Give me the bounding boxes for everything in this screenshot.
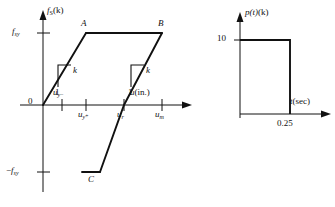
x-tick-um-subscript: m [160,114,164,120]
point-label-B: B [158,19,164,28]
y-tick-fsy-positive-subscript: sy [15,31,20,37]
x-axis-label: u(in.) [130,88,150,97]
x-tick-label-um: um [155,110,164,120]
pulse-x-axis-label: t(sec) [290,97,310,106]
slope-triangle-reloading [131,65,144,87]
pulse-x-tick-label-duration: 0.25 [277,119,293,128]
pulse-panel: p(t)(k) t(sec) 10 0.25 [200,0,335,207]
slope-label-1-loading: 1 [55,88,60,97]
y-axis-label: fS(k) [47,6,63,16]
x-tick-uy-plus-sign: + [85,113,88,119]
y-tick-fsy-negative-subscript: sy [14,170,19,176]
x-tick-uy-minus-sign: − [60,91,63,97]
pulse-plot-svg [200,0,335,207]
x-axis-label-unit: (in.) [135,87,150,97]
figure-container: fS(k) u(in.) 0 fsy −fsy uy− uy+ ur u [0,0,335,207]
pulse-waveform [240,40,290,114]
pulse-y-axis-label: p(t)(k) [245,8,269,17]
y-tick-label-fsy-positive: fsy [12,27,20,37]
x-tick-label-uy-plus: uy+ [78,110,88,120]
y-axis-arrowhead [40,10,47,20]
point-label-A: A [81,19,87,28]
slope-label-k-loading: k [73,66,77,75]
pulse-y-axis-arrowhead [237,12,244,22]
x-axis-arrowhead [182,102,192,109]
pulse-y-axis-label-unit: (k) [258,7,269,17]
slope-label-k-reloading: k [146,66,150,75]
curve-unloading-branch-BC [100,33,162,172]
y-axis-label-unit: (k) [53,5,64,15]
x-tick-ur-subscript: r [122,114,124,120]
curve-loading-branch [43,33,86,105]
slope-label-1-reloading: 1 [128,88,133,97]
pulse-x-axis-label-unit: (sec) [293,96,311,106]
pulse-y-axis-label-argument: (t) [250,7,259,17]
pulse-y-tick-label-amplitude: 10 [217,34,226,43]
y-tick-label-fsy-negative: −fsy [6,166,19,176]
point-label-C: C [88,175,94,184]
x-tick-label-ur: ur [117,110,124,120]
pulse-x-axis-arrowhead [321,111,331,118]
origin-label: 0 [28,97,33,106]
hysteresis-panel: fS(k) u(in.) 0 fsy −fsy uy− uy+ ur u [0,0,200,207]
